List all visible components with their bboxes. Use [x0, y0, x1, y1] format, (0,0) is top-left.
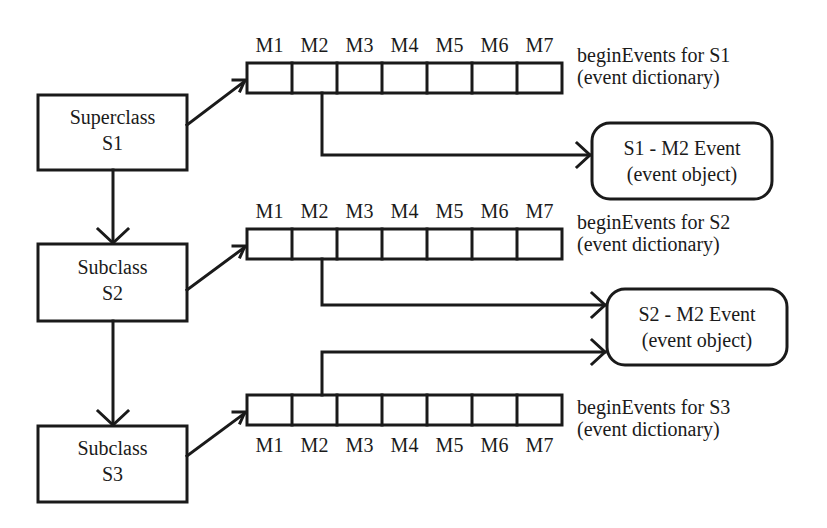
method-label: M3: [337, 434, 382, 456]
class-label-s3: Subclass S3: [38, 435, 187, 487]
class-id: S1: [38, 130, 187, 156]
method-label: M6: [472, 34, 517, 56]
dictionary-caption-s3: beginEvents for S3 (event dictionary): [577, 396, 730, 440]
dictionary-caption-s1: beginEvents for S1 (event dictionary): [577, 44, 730, 88]
class-name: Subclass: [38, 435, 187, 461]
class-to-dict-arrow-s2: [187, 247, 245, 290]
event-subtitle: (event object): [607, 327, 787, 353]
class-name: Superclass: [38, 104, 187, 130]
method-label: M5: [427, 434, 472, 456]
method-label: M4: [382, 34, 427, 56]
method-label: M3: [337, 200, 382, 222]
dictionary-array-s1: [247, 63, 562, 93]
caption-subtitle: (event dictionary): [577, 233, 730, 255]
method-label: M7: [517, 434, 562, 456]
class-name: Subclass: [38, 254, 187, 280]
class-label-s1: Superclass S1: [38, 104, 187, 156]
method-label: M7: [517, 200, 562, 222]
caption-subtitle: (event dictionary): [577, 66, 730, 88]
event-object-label-s1: S1 - M2 Event (event object): [592, 135, 772, 187]
dictionary-array-s2: [247, 229, 562, 259]
method-label: M6: [472, 200, 517, 222]
class-id: S2: [38, 280, 187, 306]
method-label: M1: [247, 434, 292, 456]
method-label: M2: [292, 34, 337, 56]
method-label: M4: [382, 434, 427, 456]
event-title: S1 - M2 Event: [592, 135, 772, 161]
method-label: M7: [517, 34, 562, 56]
caption-title: beginEvents for S3: [577, 396, 730, 418]
caption-title: beginEvents for S1: [577, 44, 730, 66]
m2-event-link-s3: [322, 352, 605, 395]
method-label: M1: [247, 200, 292, 222]
event-object-label-s2: S2 - M2 Event (event object): [607, 301, 787, 353]
dictionary-array-s3: [247, 395, 562, 425]
m2-event-link-s1: [322, 93, 590, 155]
caption-title: beginEvents for S2: [577, 211, 730, 233]
dictionary-caption-s2: beginEvents for S2 (event dictionary): [577, 211, 730, 255]
event-title: S2 - M2 Event: [607, 301, 787, 327]
method-label: M2: [292, 434, 337, 456]
method-label: M5: [427, 34, 472, 56]
class-id: S3: [38, 461, 187, 487]
method-label: M6: [472, 434, 517, 456]
method-label: M5: [427, 200, 472, 222]
m2-event-link-s2: [322, 259, 605, 305]
method-label: M2: [292, 200, 337, 222]
class-to-dict-arrow-s1: [187, 81, 245, 125]
method-label: M1: [247, 34, 292, 56]
caption-subtitle: (event dictionary): [577, 418, 730, 440]
method-label: M3: [337, 34, 382, 56]
method-label: M4: [382, 200, 427, 222]
class-to-dict-arrow-s3: [187, 413, 245, 456]
class-label-s2: Subclass S2: [38, 254, 187, 306]
event-subtitle: (event object): [592, 161, 772, 187]
